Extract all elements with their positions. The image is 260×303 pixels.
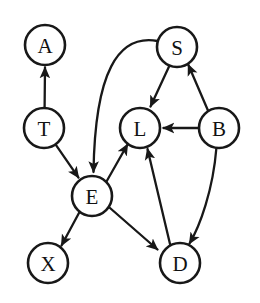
edge-D-to-L bbox=[148, 149, 171, 244]
node-E[interactable]: E bbox=[72, 176, 112, 216]
node-T-label: T bbox=[38, 117, 51, 141]
node-D[interactable]: D bbox=[160, 243, 200, 283]
node-layer: A S T L B E X bbox=[24, 25, 239, 283]
edge-E-to-X bbox=[62, 212, 80, 246]
edge-E-to-D bbox=[110, 208, 158, 250]
node-L-label: L bbox=[134, 117, 147, 141]
edge-T-to-E bbox=[56, 145, 79, 178]
node-B-label: B bbox=[212, 117, 226, 141]
node-E-label: E bbox=[86, 185, 99, 209]
node-L[interactable]: L bbox=[120, 108, 160, 148]
edge-E-to-L bbox=[107, 145, 128, 182]
node-B[interactable]: B bbox=[199, 108, 239, 148]
edge-B-to-D bbox=[190, 148, 217, 244]
node-S[interactable]: S bbox=[157, 27, 197, 67]
node-T[interactable]: T bbox=[24, 108, 64, 148]
edge-S-to-L bbox=[151, 66, 170, 107]
node-D-label: D bbox=[172, 252, 187, 276]
edge-B-to-S bbox=[188, 65, 208, 111]
node-X[interactable]: X bbox=[28, 243, 68, 283]
graph-canvas: A S T L B E X bbox=[0, 0, 260, 303]
node-S-label: S bbox=[171, 36, 183, 60]
node-A[interactable]: A bbox=[25, 25, 65, 65]
node-A-label: A bbox=[37, 34, 53, 58]
directed-graph-figure: A S T L B E X bbox=[0, 0, 260, 303]
node-X-label: X bbox=[40, 252, 55, 276]
